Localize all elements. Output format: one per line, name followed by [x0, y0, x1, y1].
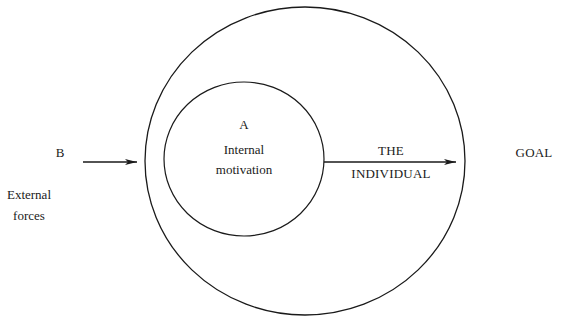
- inner-circle-internal-motivation: [164, 82, 324, 236]
- internal-letter-label: A: [224, 117, 264, 133]
- individual-label-line1: THE: [346, 143, 436, 159]
- internal-motivation-label-line2: motivation: [200, 162, 288, 178]
- goal-label: GOAL: [509, 145, 559, 161]
- external-letter-label: B: [53, 145, 67, 161]
- external-forces-label-line2: forces: [0, 208, 58, 224]
- individual-label-line2: INDIVIDUAL: [336, 166, 446, 182]
- motivation-diagram: [0, 0, 566, 321]
- internal-motivation-label-line1: Internal: [200, 142, 288, 158]
- external-forces-label-line1: External: [0, 187, 58, 203]
- outer-circle-individual: [145, 7, 465, 315]
